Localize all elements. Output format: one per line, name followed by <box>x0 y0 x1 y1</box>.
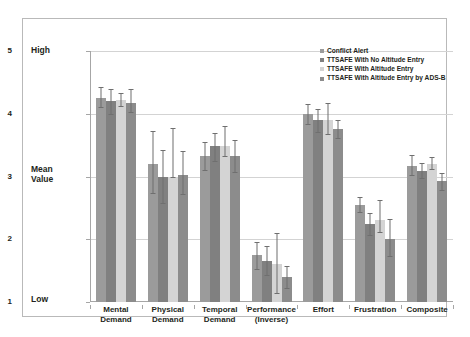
bar-column[interactable] <box>272 51 282 302</box>
bar-column[interactable] <box>126 51 136 302</box>
y-axis-label-mean-value: Mean Value <box>31 165 77 185</box>
bar-column[interactable] <box>355 51 365 302</box>
legend-item[interactable]: TTSAFE With Altitude Entry by ADS-B <box>320 75 468 82</box>
bar-group <box>194 51 246 302</box>
x-axis-label: Effort <box>297 305 349 324</box>
chart-legend: Conflict AlertTTSAFE With No Altitude En… <box>320 48 468 84</box>
legend-label: TTSAFE With Altitude Entry <box>327 66 414 73</box>
bar-column[interactable] <box>385 51 395 302</box>
bar-group <box>90 51 142 302</box>
error-bar <box>308 104 309 124</box>
bar[interactable] <box>313 120 323 302</box>
bar-column[interactable] <box>365 51 375 302</box>
legend-item[interactable]: Conflict Alert <box>320 48 468 55</box>
error-bar <box>442 173 443 190</box>
bar-column[interactable] <box>168 51 178 302</box>
error-bar <box>234 140 235 172</box>
bar[interactable] <box>407 166 417 302</box>
x-tick-mark <box>90 305 91 309</box>
bar-column[interactable] <box>333 51 343 302</box>
bar-column[interactable] <box>200 51 210 302</box>
bar[interactable] <box>427 164 437 302</box>
bar[interactable] <box>230 156 240 302</box>
bar[interactable] <box>355 205 365 302</box>
bar[interactable] <box>200 156 210 302</box>
bar-column[interactable] <box>106 51 116 302</box>
error-bar-cap-bottom <box>316 132 321 133</box>
legend-swatch-icon <box>320 49 324 53</box>
legend-swatch-icon <box>320 58 324 62</box>
error-bar-cap-bottom <box>170 177 175 178</box>
bar-column[interactable] <box>417 51 427 302</box>
error-bar-cap-top <box>420 163 425 164</box>
bar-column[interactable] <box>303 51 313 302</box>
legend-item[interactable]: TTSAFE With Altitude Entry <box>320 66 468 73</box>
bar-column[interactable] <box>407 51 417 302</box>
error-bar-cap-bottom <box>440 190 445 191</box>
bar-column[interactable] <box>375 51 385 302</box>
bar[interactable] <box>220 146 230 302</box>
error-bar-cap-top <box>180 151 185 152</box>
bar[interactable] <box>116 100 126 302</box>
bar-column[interactable] <box>210 51 220 302</box>
bar-column[interactable] <box>437 51 447 302</box>
error-bar-cap-top <box>160 150 165 151</box>
bar-column[interactable] <box>178 51 188 302</box>
error-bar-cap-top <box>336 120 341 121</box>
bar[interactable] <box>303 114 313 302</box>
bar[interactable] <box>323 120 333 302</box>
y-axis-label-low: Low <box>31 295 77 305</box>
bar-column[interactable] <box>313 51 323 302</box>
error-bar-cap-bottom <box>378 232 383 233</box>
legend-label: TTSAFE With No Altitude Entry <box>327 57 424 64</box>
error-bar <box>360 197 361 211</box>
x-axis-labels: Mental DemandPhysical DemandTemporal Dem… <box>90 305 453 324</box>
error-bar-cap-bottom <box>336 138 341 139</box>
bar[interactable] <box>437 181 447 302</box>
bar[interactable] <box>417 171 427 302</box>
bar-column[interactable] <box>158 51 168 302</box>
error-bar-cap-bottom <box>306 124 311 125</box>
bar-column[interactable] <box>230 51 240 302</box>
bar-column[interactable] <box>252 51 262 302</box>
error-bar-cap-bottom <box>388 256 393 257</box>
bar-column[interactable] <box>220 51 230 302</box>
error-bar-cap-top <box>368 213 373 214</box>
bar-column[interactable] <box>282 51 292 302</box>
error-bar-cap-top <box>128 89 133 90</box>
error-bar <box>224 126 225 155</box>
bar-column[interactable] <box>116 51 126 302</box>
bar-column[interactable] <box>96 51 106 302</box>
error-bar <box>172 128 173 177</box>
bar-group <box>142 51 194 302</box>
bar[interactable] <box>210 146 220 302</box>
error-bar-cap-top <box>170 128 175 129</box>
bar[interactable] <box>168 177 178 303</box>
legend-item[interactable]: TTSAFE With No Altitude Entry <box>320 57 468 64</box>
error-bar-cap-top <box>358 197 363 198</box>
error-bar-cap-top <box>254 242 259 243</box>
error-bar <box>276 233 277 293</box>
bar-column[interactable] <box>323 51 333 302</box>
error-bar-cap-top <box>306 104 311 105</box>
error-bar-cap-bottom <box>430 169 435 170</box>
error-bar <box>152 131 153 193</box>
x-tick-mark <box>349 305 350 309</box>
error-bar-cap-bottom <box>358 212 363 213</box>
error-bar <box>256 242 257 268</box>
bar[interactable] <box>96 98 106 302</box>
error-bar <box>110 89 111 114</box>
x-tick-mark <box>142 305 143 309</box>
bar[interactable] <box>333 129 343 302</box>
y-tick-label-3: 3 <box>0 173 12 181</box>
bar-column[interactable] <box>148 51 158 302</box>
y-tick-mark-1 <box>86 302 90 303</box>
bar[interactable] <box>126 103 136 302</box>
bar[interactable] <box>106 101 116 302</box>
x-tick-mark <box>246 305 247 309</box>
error-bar-cap-top <box>108 89 113 90</box>
bar-column[interactable] <box>262 51 272 302</box>
error-bar-cap-bottom <box>118 106 123 107</box>
bar-column[interactable] <box>427 51 437 302</box>
x-axis-label: Mental Demand <box>90 305 142 324</box>
